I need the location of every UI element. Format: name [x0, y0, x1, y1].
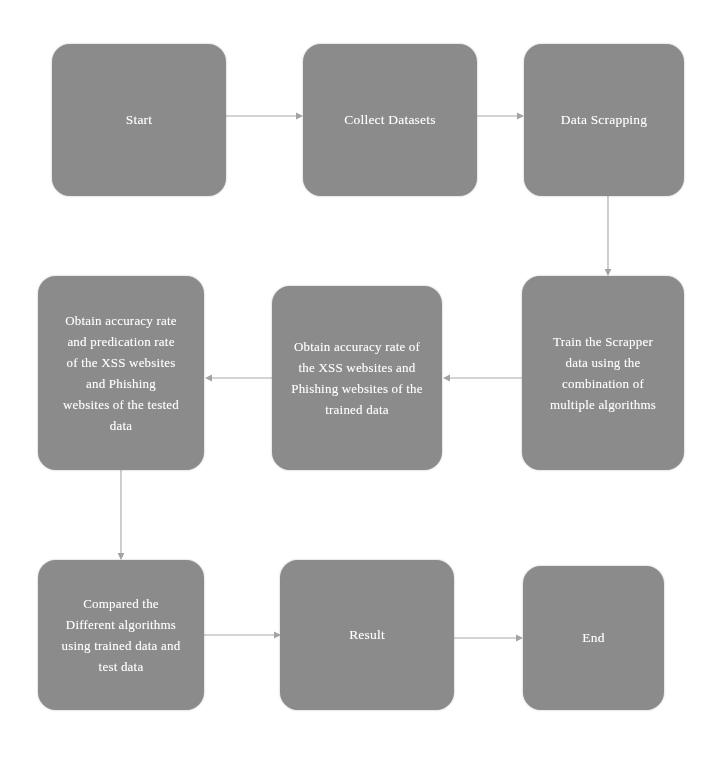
connector-train-scrapper-to-obtain-accuracy-trained — [442, 374, 522, 382]
node-obtain-accuracy-trained-label: Obtain accuracy rate ofthe XSS websites … — [281, 336, 433, 420]
connector-result-to-end — [454, 634, 524, 642]
node-collect-datasets-label: Collect Datasets — [334, 109, 445, 131]
connector-collect-datasets-to-data-scrapping — [477, 112, 525, 120]
node-start[interactable]: Start — [52, 44, 226, 196]
node-obtain-accuracy-trained[interactable]: Obtain accuracy rate ofthe XSS websites … — [272, 286, 442, 470]
node-result[interactable]: Result — [280, 560, 454, 710]
connector-start-to-collect-datasets — [226, 112, 304, 120]
node-train-scrapper-data[interactable]: Train the Scrapperdata using thecombinat… — [522, 276, 684, 470]
node-compared-algorithms-label: Compared theDifferent algorithmsusing tr… — [52, 593, 191, 677]
scan-bleed-artifact — [0, 728, 703, 754]
node-result-label: Result — [339, 624, 395, 646]
flowchart-canvas: Start Collect Datasets Data Scrapping Ob… — [0, 0, 703, 758]
node-obtain-accuracy-tested[interactable]: Obtain accuracy rateand predication rate… — [38, 276, 204, 470]
connector-data-scrapping-to-train-scrapper — [604, 196, 612, 277]
node-compared-algorithms[interactable]: Compared theDifferent algorithmsusing tr… — [38, 560, 204, 710]
connector-obtain-accuracy-trained-to-tested — [204, 374, 272, 382]
connector-obtain-accuracy-tested-to-compared-algorithms — [117, 470, 125, 561]
node-collect-datasets[interactable]: Collect Datasets — [303, 44, 477, 196]
node-start-label: Start — [116, 109, 163, 131]
node-train-scrapper-data-label: Train the Scrapperdata using thecombinat… — [540, 331, 666, 415]
connector-compared-algorithms-to-result — [204, 631, 282, 639]
node-data-scrapping[interactable]: Data Scrapping — [524, 44, 684, 196]
node-end-label: End — [572, 627, 614, 649]
node-obtain-accuracy-tested-label: Obtain accuracy rateand predication rate… — [53, 310, 189, 436]
node-data-scrapping-label: Data Scrapping — [551, 109, 657, 131]
node-end[interactable]: End — [523, 566, 664, 710]
